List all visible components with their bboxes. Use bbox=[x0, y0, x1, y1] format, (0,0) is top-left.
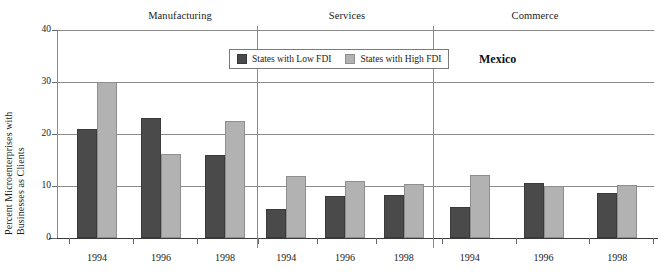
x-tick bbox=[197, 238, 198, 244]
x-tick bbox=[516, 238, 517, 244]
x-tick-label-1994: 1994 bbox=[276, 252, 296, 263]
x-tick bbox=[376, 238, 377, 244]
x-tick-label-1994: 1994 bbox=[460, 252, 480, 263]
y-tick-label-0: 0 bbox=[46, 233, 51, 243]
panel-title-services: Services bbox=[272, 10, 422, 21]
x-tick-label-1998: 1998 bbox=[215, 252, 235, 263]
legend-label-low-fdi: States with Low FDI bbox=[252, 54, 331, 64]
bar-manufacturing-1998-high-fdi bbox=[225, 121, 245, 238]
bar-commerce-1994-low-fdi bbox=[450, 207, 470, 238]
x-tick-label-1996: 1996 bbox=[335, 252, 355, 263]
panel-title-commerce: Commerce bbox=[455, 10, 615, 21]
legend-swatch-high-fdi bbox=[345, 54, 355, 64]
bar-commerce-1996-low-fdi bbox=[524, 183, 544, 238]
x-tick-end bbox=[653, 238, 654, 244]
chart-legend: States with Low FDI States with High FDI bbox=[229, 49, 449, 69]
bar-services-1994-low-fdi bbox=[266, 209, 286, 238]
x-tick-label-1998: 1998 bbox=[607, 252, 627, 263]
x-tick-label-1996: 1996 bbox=[151, 252, 171, 263]
x-tick bbox=[133, 238, 134, 244]
bar-manufacturing-1994-low-fdi bbox=[77, 129, 97, 238]
bar-services-1996-high-fdi bbox=[345, 181, 365, 238]
legend-swatch-low-fdi bbox=[237, 54, 247, 64]
x-tick bbox=[442, 238, 443, 244]
bar-services-1994-high-fdi bbox=[286, 176, 306, 238]
bar-commerce-1994-high-fdi bbox=[470, 175, 490, 238]
panel-title-manufacturing: Manufacturing bbox=[90, 10, 270, 21]
x-tick-label-1996: 1996 bbox=[534, 252, 554, 263]
bar-services-1998-high-fdi bbox=[404, 184, 424, 238]
x-tick bbox=[589, 238, 590, 244]
bar-commerce-1996-high-fdi bbox=[544, 186, 564, 238]
y-axis-label-line2: Businesses as Clients bbox=[15, 147, 26, 235]
bar-chart: Manufacturing Services Commerce Percent … bbox=[0, 0, 661, 280]
y-tick-label-40: 40 bbox=[42, 25, 52, 35]
country-label: Mexico bbox=[479, 52, 516, 67]
bar-services-1996-low-fdi bbox=[325, 196, 345, 238]
x-tick bbox=[317, 238, 318, 244]
x-tick-label-1998: 1998 bbox=[394, 252, 414, 263]
x-tick-label-1994: 1994 bbox=[87, 252, 107, 263]
gridline-0: 0 bbox=[57, 238, 654, 239]
bar-manufacturing-1994-high-fdi bbox=[97, 82, 117, 238]
legend-entry-high-fdi: States with High FDI bbox=[345, 54, 441, 64]
y-tick-label-30: 30 bbox=[42, 77, 52, 87]
bar-manufacturing-1998-low-fdi bbox=[205, 155, 225, 238]
bar-manufacturing-1996-low-fdi bbox=[141, 118, 161, 238]
y-tick-label-10: 10 bbox=[42, 181, 52, 191]
bar-commerce-1998-high-fdi bbox=[617, 185, 637, 238]
legend-label-high-fdi: States with High FDI bbox=[360, 54, 441, 64]
x-tick bbox=[258, 238, 259, 244]
x-tick bbox=[69, 238, 70, 244]
bar-manufacturing-1996-high-fdi bbox=[161, 154, 181, 238]
bar-commerce-1998-low-fdi bbox=[597, 193, 617, 238]
y-tick-label-20: 20 bbox=[42, 129, 52, 139]
bar-services-1998-low-fdi bbox=[384, 195, 404, 238]
y-axis-label-line1: Percent Microenterprises with bbox=[3, 112, 14, 235]
legend-entry-low-fdi: States with Low FDI bbox=[237, 54, 331, 64]
y-axis-label: Percent Microenterprises with Businesses… bbox=[2, 35, 32, 235]
